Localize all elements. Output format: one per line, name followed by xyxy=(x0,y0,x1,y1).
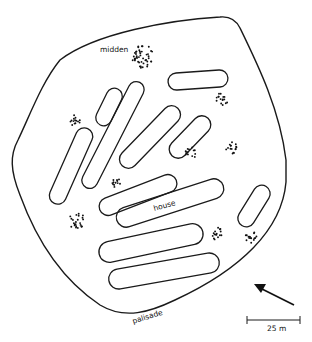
palisade-outline xyxy=(12,17,286,313)
midden-6-dots xyxy=(111,178,121,187)
house-5 xyxy=(116,102,185,172)
village-plan-diagram: midden house palisade 25 m xyxy=(0,0,312,342)
midden-8-dots xyxy=(212,227,223,241)
middens-group xyxy=(69,45,257,244)
north-arrow-icon xyxy=(254,284,294,305)
midden-1-dots xyxy=(132,45,153,69)
house-1 xyxy=(167,69,228,90)
midden-2-dots xyxy=(216,93,228,106)
house-7 xyxy=(96,172,179,218)
house-11 xyxy=(235,182,274,230)
house-3 xyxy=(79,79,147,191)
house-2 xyxy=(93,86,125,129)
midden-7-dots xyxy=(69,213,84,229)
midden-label: midden xyxy=(100,45,129,54)
midden-9-dots xyxy=(245,232,258,244)
scale-label: 25 m xyxy=(267,324,286,333)
scale-bar: 25 m xyxy=(247,316,300,333)
house-9 xyxy=(97,222,205,265)
midden-4-dots xyxy=(185,146,196,157)
houses-group xyxy=(47,69,274,290)
house-label: house xyxy=(152,198,177,213)
house-6 xyxy=(165,112,214,162)
midden-5-dots xyxy=(225,141,237,154)
midden-3-dots xyxy=(70,114,81,126)
